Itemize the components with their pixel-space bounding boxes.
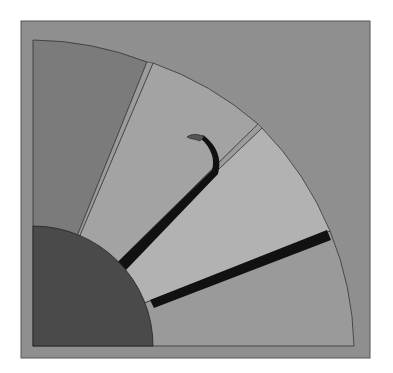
sector-diagram <box>0 0 393 373</box>
